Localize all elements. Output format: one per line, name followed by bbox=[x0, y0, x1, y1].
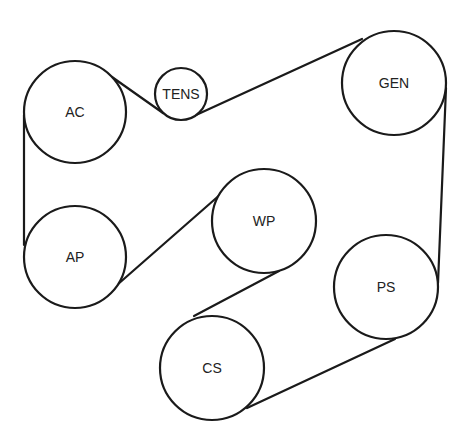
pulley-ac: AC bbox=[24, 61, 126, 163]
diagram-canvas: ACTENSGENAPWPPSCS bbox=[0, 0, 463, 436]
pulley-label: GEN bbox=[379, 75, 409, 91]
pulley-ap: AP bbox=[24, 206, 126, 308]
belt-segment-cs-wp bbox=[194, 271, 279, 316]
belt-segment-gen-ps bbox=[438, 88, 446, 283]
pulley-label: PS bbox=[377, 279, 396, 295]
pulley-label: TENS bbox=[162, 86, 199, 102]
pulley-label: AC bbox=[65, 104, 84, 120]
pulley-tens: TENS bbox=[155, 68, 207, 120]
belt-routing-diagram: ACTENSGENAPWPPSCS bbox=[0, 0, 463, 436]
pulley-label: WP bbox=[253, 213, 276, 229]
pulley-wp: WP bbox=[212, 169, 316, 273]
pulley-gen: GEN bbox=[342, 31, 446, 135]
pulley-label: CS bbox=[202, 360, 221, 376]
pulley-ps: PS bbox=[334, 235, 438, 339]
pulley-cs: CS bbox=[160, 316, 264, 420]
pulley-label: AP bbox=[66, 249, 85, 265]
belt-segment-ps-cs bbox=[247, 339, 395, 408]
belt-segment-wp-ap bbox=[117, 193, 222, 285]
belt-segment-tens-gen bbox=[196, 39, 362, 115]
